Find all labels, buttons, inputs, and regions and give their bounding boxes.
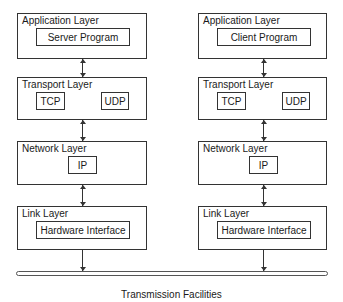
layer-title: Link Layer	[203, 208, 249, 220]
client-application-layer: Application Layer Client Program	[198, 13, 327, 59]
bidirectional-arrow-icon	[82, 185, 83, 206]
tcp-box: TCP	[36, 92, 65, 110]
server-transport-layer: Transport Layer TCP UDP	[17, 77, 147, 120]
down-arrow-icon	[263, 250, 264, 271]
server-link-layer: Link Layer Hardware Interface	[17, 206, 147, 250]
layer-title: Link Layer	[22, 208, 68, 220]
layer-title: Network Layer	[22, 143, 86, 155]
server-network-layer: Network Layer IP	[17, 141, 147, 185]
layer-title: Transport Layer	[203, 79, 273, 91]
client-link-layer: Link Layer Hardware Interface	[198, 206, 327, 250]
hardware-interface-box: Hardware Interface	[36, 221, 130, 239]
bidirectional-arrow-icon	[263, 185, 264, 206]
server-application-layer: Application Layer Server Program	[17, 13, 147, 59]
bidirectional-arrow-icon	[82, 59, 83, 77]
bidirectional-arrow-icon	[82, 120, 83, 141]
layer-title: Application Layer	[22, 15, 99, 27]
tcp-box: TCP	[217, 92, 246, 110]
layer-title: Network Layer	[203, 143, 267, 155]
udp-box: UDP	[101, 92, 129, 110]
udp-box: UDP	[282, 92, 310, 110]
down-arrow-icon	[82, 250, 83, 271]
bidirectional-arrow-icon	[263, 59, 264, 77]
bidirectional-arrow-icon	[263, 120, 264, 141]
ip-box: IP	[68, 156, 97, 174]
client-network-layer: Network Layer IP	[198, 141, 327, 185]
client-transport-layer: Transport Layer TCP UDP	[198, 77, 327, 120]
client-program-box: Client Program	[217, 28, 311, 46]
hardware-interface-box: Hardware Interface	[217, 221, 311, 239]
transmission-bus	[16, 271, 328, 276]
layer-title: Transport Layer	[22, 79, 92, 91]
ip-box: IP	[249, 156, 278, 174]
server-program-box: Server Program	[36, 28, 130, 46]
layer-title: Application Layer	[203, 15, 280, 27]
transmission-facilities-label: Transmission Facilities	[0, 289, 343, 300]
